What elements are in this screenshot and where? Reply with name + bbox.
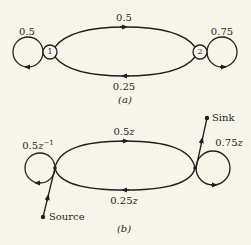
edge-1-to-2-gain: 0.5: [116, 13, 132, 23]
edge-1-to-2: [55, 27, 195, 47]
source-branch: [43, 168, 55, 217]
edge-lower-var: z: [132, 195, 137, 206]
edge-upper-coef: 0.5: [113, 126, 129, 137]
self-loop-left-exp: −1: [43, 139, 53, 147]
source-label: Source: [49, 212, 85, 222]
self-loop-left-gain: 0.5z−1: [22, 140, 54, 151]
caption-b: (b): [117, 224, 131, 234]
junction-left-dot: [53, 166, 57, 170]
self-loop-2-gain: 0.75: [211, 27, 233, 37]
self-loop-right-var: z: [237, 137, 242, 148]
edge-upper: [55, 141, 195, 168]
node-2-label: 2: [197, 48, 202, 56]
edge-lower-gain: 0.25z: [110, 196, 138, 206]
signal-flow-figure: 1 2 0.5 0.5 0.25 0.75 (a) 0.5z−1 0.5z 0.…: [0, 0, 251, 245]
self-loop-left-coef: 0.5: [22, 140, 38, 151]
source-dot: [41, 215, 45, 219]
edge-upper-gain: 0.5z: [113, 127, 134, 137]
edge-upper-var: z: [129, 126, 134, 137]
edge-2-to-1: [55, 57, 195, 76]
self-loop-1-gain: 0.5: [19, 27, 35, 37]
sink-dot: [205, 116, 209, 120]
node-1-label: 1: [47, 48, 52, 56]
self-loop-right: [196, 151, 230, 185]
junction-right-dot: [193, 166, 197, 170]
edge-2-to-1-gain: 0.25: [113, 82, 135, 92]
self-loop-right-coef: 0.75: [215, 137, 237, 148]
self-loop-right-gain: 0.75z: [215, 138, 243, 148]
edge-lower: [55, 168, 195, 190]
self-loop-node-1: [13, 37, 43, 67]
edge-lower-coef: 0.25: [110, 195, 132, 206]
sink-label: Sink: [212, 113, 235, 123]
self-loop-node-2: [207, 37, 237, 67]
self-loop-left: [25, 153, 55, 183]
caption-a: (a): [118, 95, 132, 105]
